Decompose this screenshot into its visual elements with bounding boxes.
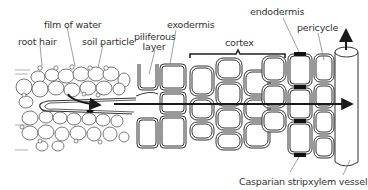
piliferous-layer [136, 64, 158, 148]
label-piliferous-line2: layer [134, 42, 174, 52]
pericycle [314, 54, 334, 158]
label-root-hair: root hair [18, 37, 57, 47]
label-soil-particle: soil particle [82, 37, 134, 47]
label-piliferous-layer: piliferous layer [134, 32, 174, 52]
label-exodermis: exodermis [167, 20, 214, 30]
label-pericycle: pericycle [297, 23, 338, 33]
exodermis [160, 64, 186, 148]
label-xylem-vessel: xylem vessel [308, 177, 367, 187]
nucleus [87, 110, 94, 113]
root-cross-section-diagram: root hair film of water soil particle pi… [0, 0, 368, 190]
label-casparian-strip: Casparian strip [239, 177, 308, 187]
cortex-cells [190, 56, 286, 150]
label-film-of-water: film of water [44, 20, 102, 30]
xylem-vessel [335, 47, 358, 166]
label-endodermis: endodermis [250, 7, 304, 17]
label-cortex: cortex [225, 38, 254, 48]
